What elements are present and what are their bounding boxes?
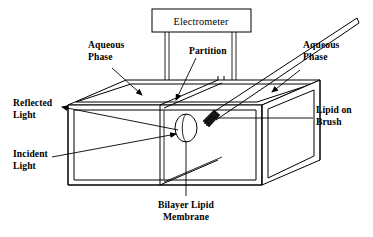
incident-light-label-line2: Light [13,160,37,171]
aqueous-phase-right-label-line1: Aqueous [303,39,340,50]
partition-label: Partition [189,45,227,56]
membrane-aperture [175,114,197,142]
bilayer-membrane-label-line2: Membrane [163,211,210,222]
brush-handle-tip [357,18,359,23]
aqueous-phase-left-label-line2: Phase [88,51,113,62]
reflected-light-label-line1: Reflected [13,97,53,108]
aqueous-phase-left-label-line1: Aqueous [88,39,125,50]
lipid-on-brush-label-line1: Lipid on [316,104,352,115]
bilayer-lipid-membrane-diagram: Electrometer Aqueous Phase Partition Aqu… [0,0,373,237]
electrometer-label: Electrometer [173,16,228,27]
aqueous-phase-right-label-line2: Phase [303,51,328,62]
front-face-outer [68,105,262,185]
reflected-light-label-line2: Light [13,109,37,120]
incident-light-label-line1: Incident [13,148,49,159]
diagram-canvas: Electrometer Aqueous Phase Partition Aqu… [0,0,373,237]
bilayer-lipid-membrane [175,114,197,142]
bilayer-membrane-label-line1: Bilayer Lipid [158,199,214,210]
lipid-on-brush-label-line2: Brush [316,116,342,127]
